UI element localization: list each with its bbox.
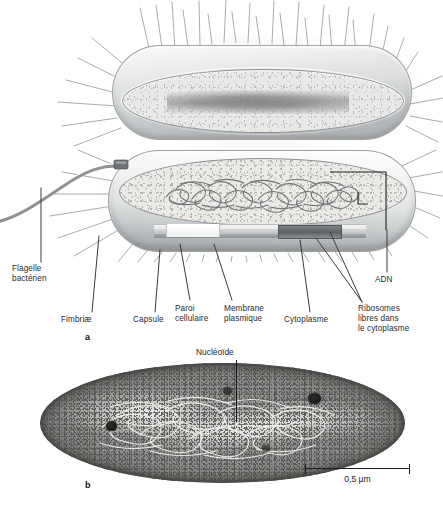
label-nucleoide: Nucléoïde [196,347,234,357]
label-fimbriae: Fimbriæ [61,315,92,325]
cell-envelope-tem [40,363,405,483]
label-adn: ADN [375,275,393,285]
micrograph-image [40,363,405,483]
label-cytoplasme: Cytoplasme [284,315,328,325]
panel-b-micrograph: b [0,345,443,509]
bacterium-tem-body [40,363,405,483]
label-paroi-cellulaire: Paroi cellulaire [175,304,208,324]
scale-bar-cap-right [409,464,410,474]
label-capsule: Capsule [133,315,164,325]
scale-bar-label: 0,5 µm [305,474,410,484]
leader-lines [0,0,443,345]
panel-letter-b: b [85,480,91,490]
panel-a-illustration: Flagelle bactérien Fimbriæ Capsule Paroi… [0,0,443,345]
panel-letter-a: a [85,332,90,342]
scale-bar-cap-left [305,464,306,474]
label-membrane-plasmique: Membrane plasmique [224,304,264,324]
label-flagelle-bacterien: Flagelle bactérien [12,264,47,284]
scale-bar [305,468,410,469]
bacterial-cell-figure: Flagelle bactérien Fimbriæ Capsule Paroi… [0,0,443,509]
label-ribosomes-libres: Ribosomes libres dans le cytoplasme [358,304,409,335]
nucleoide-leader-line [236,360,237,422]
